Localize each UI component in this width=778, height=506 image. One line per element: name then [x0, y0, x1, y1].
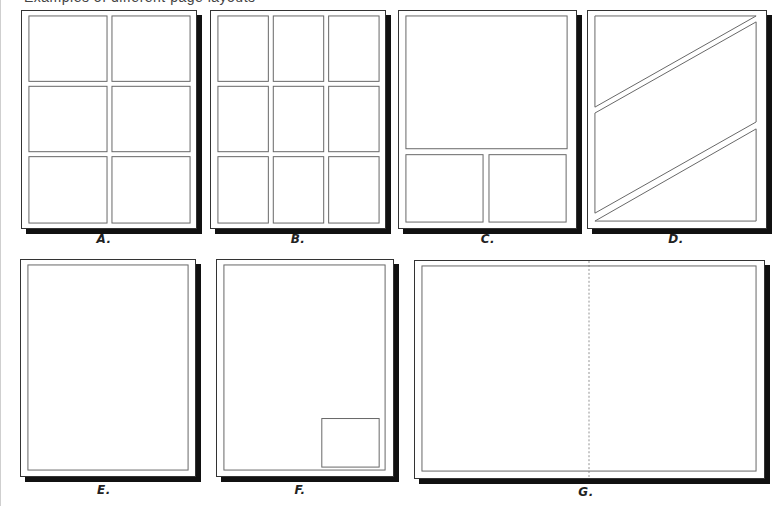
layout-f-panels	[217, 260, 393, 476]
layout-a-label: A.	[96, 232, 111, 246]
layout-b-panels	[211, 11, 385, 228]
caption-text: Examples of different page layouts	[24, 0, 256, 5]
layout-d-panels	[588, 11, 766, 228]
layout-c-page	[398, 10, 577, 229]
layout-e-label: E.	[97, 483, 111, 497]
layout-a-panels	[22, 11, 196, 228]
layout-g-page	[414, 260, 765, 479]
cropped-caption: Examples of different page layouts	[0, 0, 778, 6]
layout-c-label: C.	[481, 232, 495, 246]
layout-b-label: B.	[291, 232, 306, 246]
layout-f-page	[216, 259, 394, 477]
layout-g-panels	[415, 261, 764, 478]
layout-d-label: D.	[668, 232, 684, 246]
layout-c-panels	[399, 11, 576, 228]
layout-d-page	[587, 10, 767, 229]
layout-g-label: G.	[578, 485, 593, 499]
left-edge-line	[0, 0, 1, 506]
layout-e-page	[20, 259, 196, 477]
layout-e-panels	[21, 260, 195, 476]
layout-a-page	[21, 10, 197, 229]
layout-b-page	[210, 10, 386, 229]
layout-f-label: F.	[294, 483, 305, 497]
